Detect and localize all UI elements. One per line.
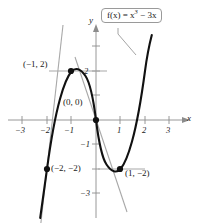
point-label-1-minus2: (1, −2) [125, 169, 150, 178]
point-label-0-0: (0, 0) [63, 98, 83, 107]
callout-leader-line [118, 28, 136, 55]
cubic-curve-right-branch [96, 35, 152, 172]
x-tick-label-minus1: −1 [64, 126, 74, 135]
marker-1-minus2 [117, 166, 123, 172]
point-label-minus1-2: (−1, 2) [23, 60, 48, 69]
x-tick-label-3: 3 [166, 126, 170, 135]
x-axis-label: x [187, 114, 191, 123]
marker-minus2-minus2 [44, 166, 50, 172]
y-tick-label-2: 2 [84, 67, 88, 76]
marker-minus1-2 [68, 68, 74, 74]
graph-figure: f(x) = x3 − 3x x y −3 −2 −1 1 2 3 2 −1 −… [0, 0, 206, 223]
x-tick-label-2: 2 [142, 126, 146, 135]
x-tick-label-minus3: −3 [15, 126, 25, 135]
y-tick-label-minus3: −3 [80, 189, 90, 198]
y-tick-label-minus1: −1 [80, 140, 90, 149]
function-label-box: f(x) = x3 − 3x [101, 8, 162, 23]
function-label-suffix: − 3x [138, 10, 157, 20]
function-label-prefix: f(x) = x [107, 10, 135, 20]
plot-canvas [0, 0, 206, 223]
x-tick-label-1: 1 [117, 126, 121, 135]
axes-group [8, 24, 190, 218]
x-tick-label-minus2: −2 [40, 126, 50, 135]
marker-0-0 [93, 117, 99, 123]
point-label-minus2-minus2: (−2, −2) [51, 164, 81, 173]
y-axis-arrow [93, 24, 99, 32]
y-axis-label: y [89, 16, 93, 25]
